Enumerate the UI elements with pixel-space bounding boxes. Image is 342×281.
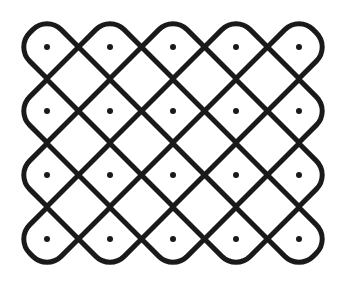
- kolam-loop: [268, 144, 323, 207]
- kolam-loop: [142, 208, 205, 263]
- kolam-dot: [233, 44, 239, 50]
- kolam-loop: [268, 80, 323, 143]
- kolam-loop: [79, 24, 142, 79]
- kolam-lines: [24, 24, 322, 262]
- kolam-dot: [170, 108, 176, 114]
- kolam-dot: [107, 108, 113, 114]
- kolam-dot: [296, 172, 302, 178]
- kolam-dot: [107, 44, 113, 50]
- kolam-dot: [233, 108, 239, 114]
- kolam-dot: [44, 108, 50, 114]
- kolam-loop: [24, 24, 79, 79]
- kolam-dot: [170, 236, 176, 242]
- kolam-dot: [296, 236, 302, 242]
- kolam-dot: [170, 172, 176, 178]
- kolam-canvas: [0, 0, 342, 281]
- kolam-dot: [170, 44, 176, 50]
- kolam-loop: [268, 24, 323, 79]
- kolam-dot: [44, 236, 50, 242]
- kolam-loop: [268, 208, 323, 263]
- kolam-dot: [296, 44, 302, 50]
- kolam-loop: [205, 208, 268, 263]
- kolam-dot: [44, 44, 50, 50]
- kolam-dot: [107, 172, 113, 178]
- kolam-loop: [24, 208, 79, 263]
- kolam-dot: [233, 172, 239, 178]
- kolam-dot: [296, 108, 302, 114]
- kolam-dot: [44, 172, 50, 178]
- kolam-loop: [142, 24, 205, 79]
- kolam-loop: [205, 24, 268, 79]
- kolam-dot: [233, 236, 239, 242]
- kolam-dot: [107, 236, 113, 242]
- kolam-loop: [79, 208, 142, 263]
- kolam-loop: [24, 80, 79, 143]
- kolam-loop: [24, 144, 79, 207]
